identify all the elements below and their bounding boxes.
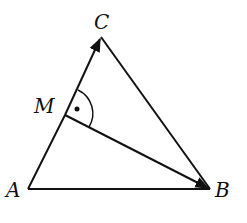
side-BC — [101, 37, 210, 189]
label-A: A — [6, 180, 20, 200]
vector-MC — [65, 39, 100, 115]
label-M: M — [34, 96, 54, 116]
segment-AM — [28, 115, 65, 189]
label-B: B — [215, 180, 230, 200]
angle-dot-M — [75, 107, 80, 112]
vector-MB — [65, 115, 208, 188]
label-C: C — [94, 12, 109, 32]
angle-arc-M — [78, 90, 93, 127]
